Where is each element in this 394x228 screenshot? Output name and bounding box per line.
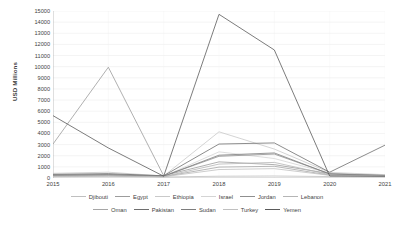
legend-row-1: DjiboutiEgyptEthiopiaIsraelJordanLebanon (0, 190, 394, 203)
y-axis-tick-label: 12000 (34, 41, 50, 47)
legend-swatch-icon (265, 209, 280, 210)
legend-item-djibouti[interactable]: Djibouti (71, 194, 108, 200)
legend-item-pakistan[interactable]: Pakistan (134, 207, 174, 213)
chart-legend: DjiboutiEgyptEthiopiaIsraelJordanLebanon… (0, 190, 394, 216)
legend-swatch-icon (155, 196, 170, 197)
x-axis-tick-label: 2017 (150, 181, 178, 188)
legend-item-yemen[interactable]: Yemen (265, 207, 301, 213)
legend-label: Djibouti (89, 194, 108, 200)
legend-item-oman[interactable]: Oman (93, 207, 127, 213)
legend-label: Lebanon (301, 194, 324, 200)
legend-swatch-icon (223, 209, 238, 210)
y-axis-tick-label: 1000 (38, 164, 50, 170)
y-axis-tick-label: 14000 (34, 19, 50, 25)
x-axis-tick-label: 2021 (371, 181, 394, 188)
x-axis-tick-label: 2016 (94, 181, 122, 188)
legend-label: Sudan (199, 207, 216, 213)
legend-item-sudan[interactable]: Sudan (181, 207, 216, 213)
y-axis-tick-label: 11000 (35, 53, 50, 59)
legend-item-lebanon[interactable]: Lebanon (283, 194, 324, 200)
y-axis-tick-label: 8000 (38, 86, 50, 92)
legend-swatch-icon (71, 196, 86, 197)
x-axis-tick-label: 2018 (205, 181, 233, 188)
legend-label: Turkey (241, 207, 259, 213)
legend-swatch-icon (283, 196, 298, 197)
line-chart: USD Millions 150001400013000120001100010… (0, 0, 394, 228)
y-axis-tick-label: 2000 (38, 153, 50, 159)
legend-label: Oman (111, 207, 127, 213)
legend-label: Pakistan (152, 207, 174, 213)
legend-label: Jordan (258, 194, 276, 200)
legend-swatch-icon (134, 209, 149, 210)
y-axis-tick-label: 4000 (38, 130, 50, 136)
y-axis-tick-label: 7000 (38, 97, 50, 103)
legend-label: Ethiopia (173, 194, 194, 200)
legend-row-2: OmanPakistanSudanTurkeyYemen (0, 203, 394, 216)
legend-swatch-icon (115, 196, 130, 197)
legend-swatch-icon (240, 196, 255, 197)
x-axis-tick-label: 2020 (316, 181, 344, 188)
y-axis-tick-label: 3000 (38, 142, 50, 148)
legend-item-jordan[interactable]: Jordan (240, 194, 276, 200)
plot-svg (53, 11, 385, 178)
legend-swatch-icon (93, 209, 108, 210)
legend-swatch-icon (201, 196, 216, 197)
legend-item-egypt[interactable]: Egypt (115, 194, 148, 200)
plot-area (53, 11, 385, 178)
y-axis-tick-labels: 1500014000130001200011000100009000800070… (14, 0, 50, 190)
legend-label: Yemen (283, 207, 301, 213)
legend-item-ethiopia[interactable]: Ethiopia (155, 194, 194, 200)
y-axis-tick-label: 10000 (34, 64, 50, 70)
x-axis-tick-label: 2015 (39, 181, 67, 188)
legend-item-israel[interactable]: Israel (201, 194, 233, 200)
y-axis-tick-label: 6000 (38, 108, 50, 114)
legend-swatch-icon (181, 209, 196, 210)
y-axis-tick-label: 5000 (38, 119, 50, 125)
y-axis-tick-label: 13000 (34, 30, 50, 36)
x-axis-tick-label: 2019 (260, 181, 288, 188)
legend-label: Egypt (133, 194, 148, 200)
legend-label: Israel (219, 194, 233, 200)
y-axis-tick-label: 15000 (34, 8, 50, 14)
legend-item-turkey[interactable]: Turkey (223, 207, 259, 213)
y-axis-tick-label: 9000 (38, 75, 50, 81)
